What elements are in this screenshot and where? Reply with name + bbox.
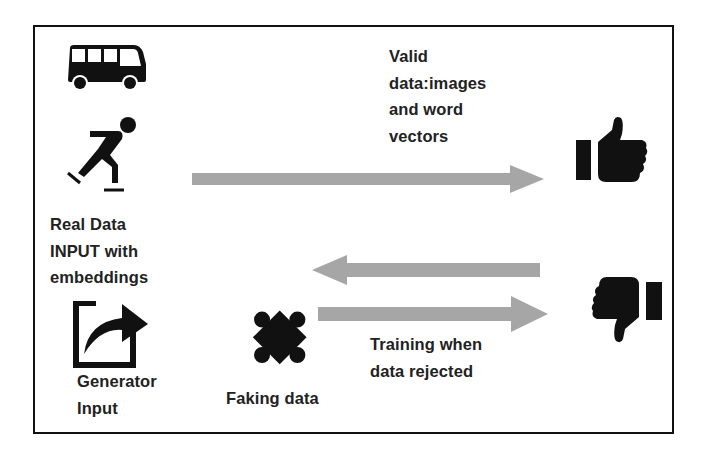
ice-skater-icon <box>64 115 140 193</box>
real-data-label: Real Data INPUT with embeddings <box>50 211 148 291</box>
arrow-rejected-back <box>311 254 543 286</box>
arrow-to-thumbs-down <box>318 294 550 334</box>
share-arrow-icon <box>70 296 150 370</box>
valid-data-label: Valid data:images and word vectors <box>389 43 486 149</box>
puzzle-piece-icon <box>240 298 318 378</box>
faking-data-label: Faking data <box>226 385 319 412</box>
thumbs-down-icon <box>591 277 665 345</box>
thumbs-up-icon <box>576 116 650 184</box>
bus-icon <box>66 44 148 92</box>
arrow-to-thumbs-up <box>192 163 546 195</box>
generator-label: Generator Input <box>77 368 157 421</box>
training-label: Training when data rejected <box>370 331 482 384</box>
